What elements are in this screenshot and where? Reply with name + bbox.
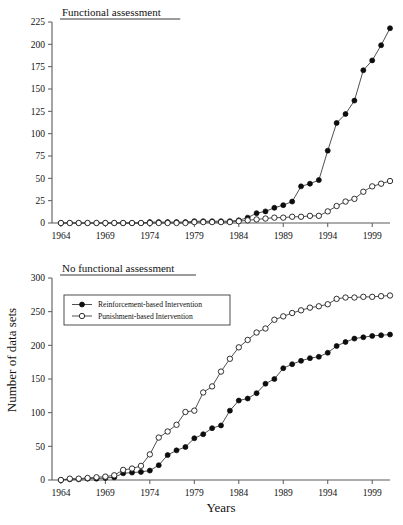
x-tick-label: 1999: [363, 488, 382, 498]
data-point-punishment: [236, 345, 241, 350]
data-point-punishment: [370, 294, 375, 299]
y-tick-label: 250: [31, 307, 46, 317]
data-point-reinforcement: [236, 398, 241, 403]
legend: Reinforcement-based InterventionPunishme…: [64, 295, 230, 325]
data-point-reinforcement: [281, 203, 286, 208]
data-point-reinforcement: [254, 211, 259, 216]
data-point-reinforcement: [245, 396, 250, 401]
data-point-punishment: [316, 304, 321, 309]
data-point-reinforcement: [388, 26, 393, 31]
data-point-punishment: [254, 217, 259, 222]
y-tick-label: 200: [31, 341, 46, 351]
data-point-punishment: [201, 390, 206, 395]
series-line-punishment: [61, 181, 390, 223]
data-point-punishment: [138, 220, 143, 225]
data-point-punishment: [307, 305, 312, 310]
data-point-reinforcement: [352, 98, 357, 103]
data-point-reinforcement: [290, 362, 295, 367]
x-tick-label: 1964: [51, 488, 70, 498]
data-point-punishment: [138, 463, 143, 468]
data-point-punishment: [103, 220, 108, 225]
x-tick-label: 1974: [140, 231, 159, 241]
data-point-punishment: [272, 215, 277, 220]
data-point-punishment: [343, 199, 348, 204]
x-tick-label: 1964: [51, 231, 70, 241]
data-point-punishment: [183, 220, 188, 225]
data-point-reinforcement: [281, 366, 286, 371]
data-point-reinforcement: [316, 178, 321, 183]
data-point-punishment: [174, 220, 179, 225]
y-tick-label: 0: [40, 218, 45, 228]
data-point-reinforcement: [379, 333, 384, 338]
series-line-reinforcement: [61, 335, 390, 480]
y-tick-label: 100: [31, 408, 46, 418]
data-point-punishment: [120, 220, 125, 225]
x-tick-label: 1974: [140, 488, 159, 498]
data-point-punishment: [147, 220, 152, 225]
data-point-reinforcement: [361, 68, 366, 73]
y-tick-label: 225: [31, 17, 46, 27]
data-point-reinforcement: [388, 332, 393, 337]
data-point-reinforcement: [370, 333, 375, 338]
data-point-punishment: [112, 220, 117, 225]
data-point-reinforcement: [370, 58, 375, 63]
data-point-punishment: [245, 337, 250, 342]
y-tick-label: 50: [36, 174, 46, 184]
data-point-punishment: [120, 467, 125, 472]
data-point-punishment: [58, 477, 63, 482]
data-point-punishment: [76, 220, 81, 225]
data-point-punishment: [67, 476, 72, 481]
x-tick-label: 1979: [185, 231, 204, 241]
data-point-punishment: [281, 215, 286, 220]
data-point-punishment: [94, 220, 99, 225]
x-tick-label: 1989: [274, 488, 293, 498]
data-point-punishment: [201, 219, 206, 224]
data-point-reinforcement: [201, 432, 206, 437]
data-point-punishment: [370, 184, 375, 189]
data-point-reinforcement: [138, 469, 143, 474]
data-point-punishment: [281, 314, 286, 319]
data-point-punishment: [209, 219, 214, 224]
series-line-reinforcement: [61, 28, 390, 223]
y-tick-label: 75: [36, 151, 46, 161]
y-tick-label: 150: [31, 84, 46, 94]
x-tick-label: 1984: [229, 488, 248, 498]
data-point-reinforcement: [272, 377, 277, 382]
data-point-punishment: [245, 218, 250, 223]
x-tick-label: 1969: [96, 231, 115, 241]
data-point-reinforcement: [227, 408, 232, 413]
data-point-punishment: [165, 429, 170, 434]
y-tick-label: 100: [31, 129, 46, 139]
data-point-reinforcement: [254, 391, 259, 396]
legend-marker-reinforcement-icon: [80, 302, 85, 307]
data-point-reinforcement: [290, 199, 295, 204]
data-point-reinforcement: [272, 205, 277, 210]
y-tick-label: 25: [36, 196, 46, 206]
data-point-reinforcement: [174, 448, 179, 453]
x-tick-label: 1979: [185, 488, 204, 498]
data-point-punishment: [289, 310, 294, 315]
data-point-punishment: [352, 196, 357, 201]
x-tick-label: 1999: [363, 231, 382, 241]
y-tick-label: 300: [31, 273, 46, 283]
data-point-reinforcement: [210, 426, 215, 431]
chart-canvas: 0255075100125150175200225196419691974197…: [0, 0, 403, 525]
data-point-punishment: [218, 369, 223, 374]
data-point-punishment: [263, 326, 268, 331]
x-tick-label: 1969: [96, 488, 115, 498]
data-point-punishment: [165, 220, 170, 225]
data-point-punishment: [147, 452, 152, 457]
data-point-reinforcement: [307, 356, 312, 361]
x-tick-label: 1994: [318, 488, 337, 498]
data-point-punishment: [85, 475, 90, 480]
data-point-reinforcement: [263, 209, 268, 214]
data-point-punishment: [334, 203, 339, 208]
data-point-reinforcement: [299, 358, 304, 363]
data-point-punishment: [307, 213, 312, 218]
data-point-punishment: [387, 293, 392, 298]
data-point-punishment: [218, 219, 223, 224]
y-tick-label: 200: [31, 40, 46, 50]
data-point-punishment: [236, 219, 241, 224]
y-axis-title: Number of data sets: [4, 308, 19, 412]
data-point-punishment: [156, 435, 161, 440]
